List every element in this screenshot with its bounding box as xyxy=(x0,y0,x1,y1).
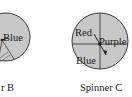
spinner-b-caption: r B xyxy=(1,83,14,94)
spinner-c-label-red: Red xyxy=(75,28,92,39)
spinner-c-label-blue: Blue xyxy=(76,56,96,67)
spinner-c-label-purple: Purple xyxy=(99,37,126,48)
spinner-b-label-blue: Blue xyxy=(3,33,23,44)
spinner-c-caption: Spinner C xyxy=(80,83,122,94)
